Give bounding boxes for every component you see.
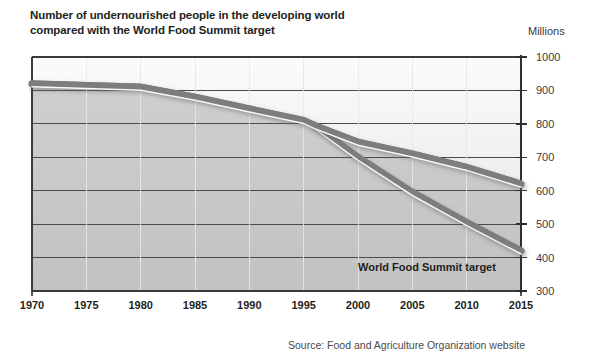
- y-axis-tick-label: 600: [536, 185, 554, 197]
- y-axis-tick-label: 300: [536, 285, 554, 297]
- x-axis-tick-label: 1995: [291, 299, 315, 311]
- x-axis-tick-label: 2005: [400, 299, 424, 311]
- chart-figure: Number of undernourished people in the d…: [0, 0, 589, 360]
- plot-background: [32, 57, 521, 291]
- x-axis-tick-label: 2015: [509, 299, 533, 311]
- x-axis-tick-label: 2000: [346, 299, 370, 311]
- y-axis-tick-label: 400: [536, 252, 554, 264]
- y-axis-tick-label: 1000: [536, 51, 560, 63]
- y-axis-tick-label: 900: [536, 84, 554, 96]
- x-axis-tick-label: 1985: [183, 299, 207, 311]
- source-label: Source: Food and Agriculture Organizatio…: [288, 339, 525, 351]
- x-axis-tick-label: 1970: [20, 299, 44, 311]
- x-axis-tick-label: 2010: [454, 299, 478, 311]
- y-axis-tick-label: 700: [536, 151, 554, 163]
- x-axis-tick-label: 1990: [237, 299, 261, 311]
- x-axis-tick-label: 1975: [74, 299, 98, 311]
- y-axis-tick-label: 800: [536, 118, 554, 130]
- y-axis-tick-label: 500: [536, 218, 554, 230]
- x-axis-tick-label: 1980: [128, 299, 152, 311]
- series-annotation-label: World Food Summit target: [358, 261, 496, 273]
